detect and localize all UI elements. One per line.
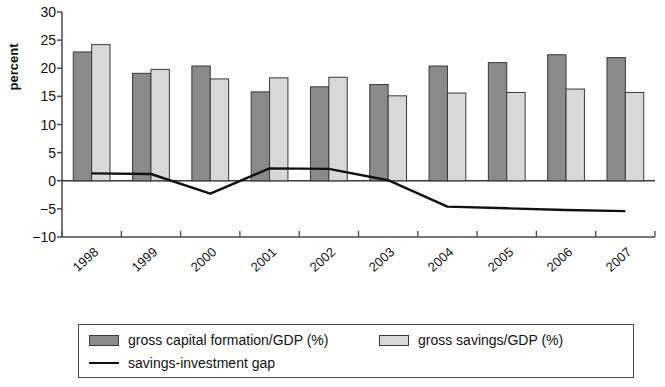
chart-legend: gross capital formation/GDP (%) gross sa…	[78, 324, 634, 378]
legend-label: savings-investment gap	[128, 356, 275, 370]
plot-area	[0, 0, 665, 330]
legend-item-savings-investment-gap: savings-investment gap	[89, 353, 275, 373]
line-sample-icon	[89, 362, 119, 364]
legend-item-gross-capital-formation: gross capital formation/GDP (%)	[89, 330, 328, 350]
legend-item-gross-savings: gross savings/GDP (%)	[379, 330, 563, 350]
legend-label: gross savings/GDP (%)	[418, 333, 563, 347]
dark-swatch-icon	[89, 335, 119, 346]
legend-label: gross capital formation/GDP (%)	[128, 333, 328, 347]
chart-figure: percent 302520151050−5−10 19981999200020…	[0, 0, 665, 387]
light-swatch-icon	[379, 335, 409, 346]
